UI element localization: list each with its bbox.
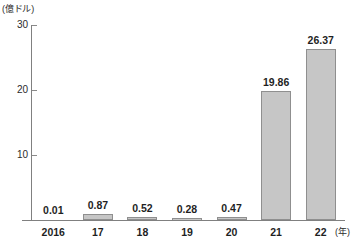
bar-value-label: 19.86	[254, 77, 299, 88]
bar-value-label: 0.01	[31, 205, 76, 216]
y-axis-tick-label: 30	[0, 20, 28, 30]
y-axis-tick-label-text: 30	[2, 20, 28, 30]
bar-value-label: 0.47	[209, 203, 254, 214]
x-axis-line	[22, 220, 345, 221]
bar-value-label: 26.37	[298, 35, 343, 46]
y-axis-tick-label-text: 20	[2, 85, 28, 95]
y-axis-tick-label-text: 10	[2, 150, 28, 160]
bar	[217, 217, 247, 220]
x-axis-category-label: 20	[209, 226, 254, 238]
x-axis-category-label: 17	[76, 226, 121, 238]
x-axis-category-label: 21	[254, 226, 299, 238]
bar	[172, 218, 202, 220]
y-axis-tick-label: 20	[0, 85, 28, 95]
x-axis-category-label: 18	[120, 226, 165, 238]
bar	[127, 217, 157, 220]
y-axis-tick-mark	[32, 90, 37, 91]
bar	[83, 214, 113, 220]
x-axis-category-label: 2016	[31, 226, 76, 238]
y-axis-tick-mark	[32, 155, 37, 156]
bar-value-label: 0.52	[120, 203, 165, 214]
y-axis-tick-mark	[32, 25, 37, 26]
bar-value-label: 0.28	[165, 204, 210, 215]
bar	[306, 49, 336, 220]
x-axis-unit-label: (年)	[335, 227, 350, 238]
bar	[261, 91, 291, 220]
y-axis-line	[31, 25, 32, 221]
x-axis-category-label: 19	[165, 226, 210, 238]
y-axis-tick-label: 10	[0, 150, 28, 160]
bar-value-label: 0.87	[76, 200, 121, 211]
y-axis-unit-label: (億ドル)	[2, 4, 34, 15]
bar-chart: (億ドル) 102030 0.0120160.87170.52180.28190…	[0, 0, 353, 248]
